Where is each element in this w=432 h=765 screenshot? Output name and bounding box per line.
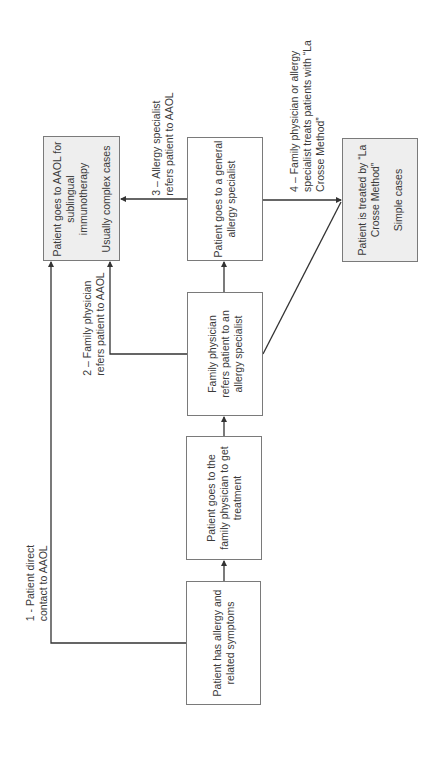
node-text: Patient goes to AAOL for [51,141,63,256]
node-text: allergy specialist [225,160,237,237]
edge-label-text: 2 – Family physician [81,280,93,375]
edge-label-1: 1 - Patient direct contact to AAOL [24,545,50,621]
node-text: Crosse Method” [369,163,381,238]
edge-label-text: contact to AAOL [37,545,49,621]
node-fp-refers: Family physician refers patient to an al… [187,292,263,416]
node-text: related symptoms [224,602,236,685]
edge-label-text: 1 - Patient direct [24,545,36,621]
node-text: refers patient to an [219,310,231,398]
node-has-allergy: Patient has allergy and related symptoms [186,581,261,705]
node-text: Patient has allergy and [211,590,223,697]
node-note: Simple cases [392,169,404,231]
node-aaol: Patient goes to AAOL for sublingual immu… [43,136,120,261]
node-text: immunotherapy [77,162,89,234]
edge-label-3: 3 – Allergy specialist refers patient to… [149,93,176,195]
node-text: Patient goes to a general [212,141,224,258]
node-family-physician: Patient goes to the family physician to … [186,436,262,560]
node-text: Patient goes to the [205,454,217,542]
edge-label-text: 4 – Family physician or allergy [288,51,300,192]
node-text: Family physician [206,315,218,393]
edge-label-text: Crosse Method” [314,117,326,192]
node-text: Patient is treated by “La [356,145,368,256]
node-text: sublingual [64,175,76,222]
edge-label-text: refers patient to AAOL [94,272,106,375]
node-note: Usually complex cases [100,145,112,252]
edge-label-4: 4 – Family physician or allergy speciali… [288,40,326,192]
node-text: allergy specialist [232,315,244,392]
node-text: family physician to get [218,446,230,549]
edge-label-text: specialist treats patients with “La [301,40,313,192]
edge-label-2: 2 – Family physician refers patient to A… [81,275,107,372]
node-la-crosse: Patient is treated by “La Crosse Method”… [342,138,418,262]
node-general-specialist: Patient goes to a general allergy specia… [187,137,263,261]
edge-label-text: 3 – Allergy specialist [150,101,162,196]
edge-label-text: refers patient to AAOL [163,92,175,195]
node-text: treatment [231,476,243,520]
